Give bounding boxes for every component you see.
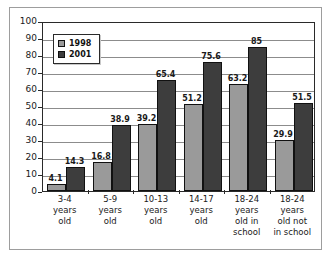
y-tick-label: 100: [9, 17, 37, 26]
x-category-line: old: [42, 216, 88, 227]
bar-value-label: 85: [244, 37, 270, 46]
bar-value-label: 51.2: [179, 94, 205, 103]
y-tick-label: 60: [9, 85, 37, 94]
x-category-line: years: [224, 205, 270, 216]
x-category-line: 10-13: [133, 194, 179, 205]
x-category-label: 18-24yearsold notin school: [270, 194, 316, 238]
bar-value-label: 16.8: [88, 152, 114, 161]
bar-group: 63.285: [225, 23, 271, 191]
x-category-line: 5-9: [88, 194, 134, 205]
x-tick-mark: [179, 190, 180, 194]
y-tick-label: 80: [9, 51, 37, 60]
bar-2001-2: [157, 80, 176, 191]
x-category-label: 14-17yearsold: [179, 194, 225, 227]
bar-1998-1: [93, 162, 112, 191]
bar-2001-1: [112, 125, 131, 191]
x-category-line: in school: [270, 227, 316, 238]
bar-2001-0: [66, 167, 85, 191]
x-category-line: years: [42, 205, 88, 216]
y-tick-label: 50: [9, 102, 37, 111]
x-category-line: old: [88, 216, 134, 227]
bar-value-label: 4.1: [43, 174, 69, 183]
x-category-label: 3-4yearsold: [42, 194, 88, 227]
bar-value-label: 39.2: [134, 114, 160, 123]
y-tick-label: 70: [9, 68, 37, 77]
legend-entry-2001: 2001: [58, 49, 95, 60]
x-category-line: years: [88, 205, 134, 216]
x-category-line: years: [179, 205, 225, 216]
x-category-line: 18-24: [224, 194, 270, 205]
bar-value-label: 63.2: [225, 74, 251, 83]
bar-value-label: 14.3: [62, 157, 88, 166]
x-tick-mark: [270, 190, 271, 194]
x-axis-categories: 3-4yearsold5-9yearsold10-13yearsold14-17…: [42, 194, 315, 252]
bar-2001-5: [294, 103, 313, 191]
y-tick-label: 90: [9, 34, 37, 43]
bar-value-label: 75.6: [198, 52, 224, 61]
bar-chart-figure: 0102030405060708090100 4.114.316.838.939…: [0, 0, 335, 265]
bar-value-label: 65.4: [153, 70, 179, 79]
chart-legend: 1998 2001: [53, 34, 100, 64]
y-tick-label: 10: [9, 170, 37, 179]
legend-swatch-2001: [58, 51, 65, 58]
x-tick-mark: [88, 190, 89, 194]
bar-group: 51.275.6: [180, 23, 226, 191]
bar-2001-4: [248, 47, 267, 192]
plot-area: 4.114.316.838.939.265.451.275.663.28529.…: [42, 22, 315, 192]
legend-label-2001: 2001: [69, 50, 91, 59]
bar-value-label: 51.5: [289, 93, 315, 102]
x-category-line: old not: [270, 216, 316, 227]
bar-1998-5: [275, 140, 294, 191]
bar-2001-3: [203, 62, 222, 191]
y-tick-label: 40: [9, 119, 37, 128]
bar-1998-3: [184, 104, 203, 191]
x-category-line: 18-24: [270, 194, 316, 205]
bar-group: 39.265.4: [134, 23, 180, 191]
bar-value-label: 38.9: [107, 115, 133, 124]
x-category-label: 18-24yearsold inschool: [224, 194, 270, 238]
x-category-line: 3-4: [42, 194, 88, 205]
legend-label-1998: 1998: [69, 39, 91, 48]
x-tick-mark: [224, 190, 225, 194]
bar-1998-4: [229, 84, 248, 191]
y-tick-label: 0: [9, 187, 37, 196]
x-category-line: old: [179, 216, 225, 227]
bar-group: 29.951.5: [271, 23, 317, 191]
bar-1998-2: [138, 124, 157, 191]
x-category-line: school: [224, 227, 270, 238]
x-category-label: 10-13yearsold: [133, 194, 179, 227]
x-tick-mark: [133, 190, 134, 194]
x-category-line: years: [133, 205, 179, 216]
legend-entry-1998: 1998: [58, 38, 95, 49]
x-category-line: old: [133, 216, 179, 227]
x-category-label: 5-9yearsold: [88, 194, 134, 227]
x-category-line: old in: [224, 216, 270, 227]
x-category-line: 14-17: [179, 194, 225, 205]
y-tick-label: 20: [9, 153, 37, 162]
bar-1998-0: [47, 184, 66, 191]
bar-value-label: 29.9: [270, 130, 296, 139]
y-tick-label: 30: [9, 136, 37, 145]
x-category-line: years: [270, 205, 316, 216]
legend-swatch-1998: [58, 40, 65, 47]
